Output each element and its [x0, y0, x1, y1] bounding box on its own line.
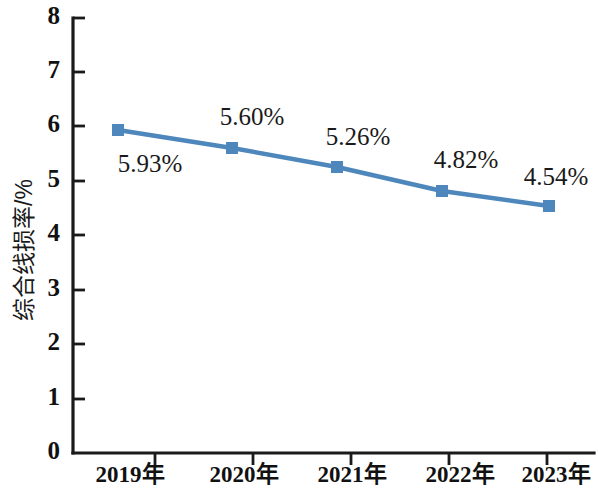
data-label-2020: 5.60% [220, 103, 285, 130]
line-chart-figure: 综合线损率/% 8 7 6 5 4 3 2 1 0 2019年 2020年 20… [0, 0, 598, 489]
y-tick-label-7: 7 [48, 56, 61, 83]
data-point-marker-2021[interactable] [331, 161, 343, 173]
chart-canvas: 综合线损率/% 8 7 6 5 4 3 2 1 0 2019年 2020年 20… [0, 0, 598, 489]
y-tick-label-3: 3 [48, 274, 61, 301]
data-point-marker-2019[interactable] [112, 124, 124, 136]
y-tick-label-0: 0 [48, 437, 61, 464]
x-tick-label-2019: 2019年 [96, 461, 165, 487]
data-point-marker-2022[interactable] [436, 185, 448, 197]
x-tick-label-2023: 2023年 [522, 461, 591, 487]
x-tick-label-2022: 2022年 [426, 461, 495, 487]
data-label-2019: 5.93% [118, 150, 183, 177]
data-label-2021: 5.26% [326, 123, 391, 150]
x-tick-label-2020: 2020年 [210, 461, 279, 487]
y-tick-label-5: 5 [48, 165, 61, 192]
y-tick-label-4: 4 [48, 219, 61, 246]
y-tick-label-1: 1 [48, 383, 61, 410]
data-label-2022: 4.82% [434, 146, 499, 173]
data-point-marker-2023[interactable] [543, 200, 555, 212]
data-label-2023: 4.54% [524, 163, 589, 190]
y-tick-label-6: 6 [48, 110, 61, 137]
x-tick-label-2021: 2021年 [318, 461, 387, 487]
data-point-marker-2020[interactable] [226, 142, 238, 154]
y-tick-label-8: 8 [48, 2, 61, 29]
y-axis-title: 综合线损率/% [11, 179, 37, 321]
y-tick-label-2: 2 [48, 328, 61, 355]
